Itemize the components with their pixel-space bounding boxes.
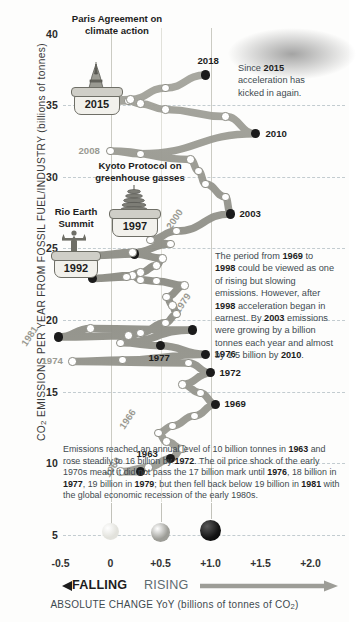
note-period-l7: were growing by a billion xyxy=(215,325,316,335)
note-period-l2b: could be viewed as one xyxy=(235,263,334,273)
paris-milestone-year: 2015 xyxy=(85,98,109,110)
data-point-1979[interactable] xyxy=(188,325,197,334)
data-point-1987[interactable] xyxy=(162,293,170,301)
data-point-1989[interactable] xyxy=(152,277,160,285)
para-year-1963: 1963 xyxy=(288,444,308,454)
note-period-l5b: acceleration began in xyxy=(235,301,325,311)
data-point-1975[interactable] xyxy=(118,356,126,364)
para-p1: Emissions reached an annual level of 10 … xyxy=(63,444,288,454)
para-p4: , 18 billion in xyxy=(287,467,336,477)
data-point-2011[interactable] xyxy=(221,112,229,120)
data-point-1966[interactable] xyxy=(154,429,162,437)
legend-stem-2 xyxy=(211,503,212,519)
paris-milestone-heading: Paris Agreement on climate action xyxy=(42,13,192,37)
data-point-1994[interactable] xyxy=(136,268,144,276)
data-point-1996[interactable] xyxy=(158,254,166,262)
data-point-1995[interactable] xyxy=(152,261,160,269)
x-tick-+0.5: +0.5 xyxy=(138,557,184,569)
summary-paragraph: Emissions reached an annual level of 10 … xyxy=(63,444,343,502)
data-point-1984[interactable] xyxy=(161,319,169,327)
data-point-2018[interactable] xyxy=(201,70,210,79)
note-period-year-1998a: 1998 xyxy=(215,263,235,273)
note-since-2015-l3: kicked in again. xyxy=(238,88,301,98)
para-year-1977: 1977 xyxy=(63,479,83,489)
point-label-1977: 1977 xyxy=(149,352,170,363)
note-period-l8: tonnes each year and almost xyxy=(215,338,333,348)
note-since-2015-year: 2015 xyxy=(264,63,284,73)
rio-milestone-year-plinth: 1992 xyxy=(54,257,98,278)
note-period-l1c: to xyxy=(303,251,313,261)
data-point-1983[interactable] xyxy=(136,329,144,337)
rio-heading-line1: Rio Earth xyxy=(55,206,98,217)
note-since-2015-l2: acceleration has xyxy=(238,75,305,85)
paris-milestone-year-plinth: 2015 xyxy=(74,93,120,115)
data-point-2003[interactable] xyxy=(226,209,235,218)
data-point-1976[interactable] xyxy=(201,350,210,359)
point-label-2008: 2008 xyxy=(79,145,100,156)
data-point-1981[interactable] xyxy=(54,332,63,341)
note-since-2015: Since 2015 acceleration has kicked in ag… xyxy=(238,62,343,99)
legend-swatch-+1.0 xyxy=(200,520,221,541)
data-point-2013[interactable] xyxy=(136,99,144,107)
para-year-1981: 1981 xyxy=(301,479,321,489)
note-since-2015-l1a: Since xyxy=(238,63,264,73)
data-point-1980[interactable] xyxy=(86,324,94,332)
para-year-1976: 1976 xyxy=(267,467,287,477)
data-point-1974[interactable] xyxy=(68,357,76,365)
note-period-year-1969: 1969 xyxy=(282,251,302,261)
x-axis-title-tail: ) xyxy=(295,599,299,610)
point-label-2003: 2003 xyxy=(240,208,261,219)
data-point-1982[interactable] xyxy=(124,331,132,339)
kyoto-milestone-heading: Kyoto Protocol on greenhouse gasses xyxy=(75,160,205,184)
plinth-cap xyxy=(71,87,123,97)
x-tick-0: 0 xyxy=(88,557,134,569)
point-label-1969: 1969 xyxy=(225,398,246,409)
point-label-2010: 2010 xyxy=(266,128,287,139)
data-point-2016[interactable] xyxy=(126,95,134,103)
kyoto-milestone-year: 1997 xyxy=(123,220,147,232)
para-year-1979: 1979 xyxy=(135,479,155,489)
data-point-1999[interactable] xyxy=(128,248,136,256)
note-period-l1a: The period from xyxy=(215,251,282,261)
note-period-l6a: earnest. By xyxy=(215,313,264,323)
note-period-l6c: emissions xyxy=(284,313,327,323)
legend-stem-1 xyxy=(161,503,162,522)
note-period-l9a: by 1.5 billion by xyxy=(215,350,281,360)
note-period-year-2003: 2003 xyxy=(264,313,284,323)
data-point-1993[interactable] xyxy=(122,273,130,281)
plinth-cap xyxy=(51,251,101,261)
note-period-1969-2010: The period from 1969 to 1998 could be vi… xyxy=(215,250,343,362)
rio-milestone-year: 1992 xyxy=(64,262,88,274)
falling-label: FALLING xyxy=(72,578,127,592)
kyoto-milestone-year-plinth: 1997 xyxy=(112,215,158,237)
data-point-1978[interactable] xyxy=(116,339,124,347)
falling-rising-legend: FALLING RISING xyxy=(50,577,340,595)
note-period-l4: emissions. However, after xyxy=(215,288,320,298)
paris-heading-line1: Paris Agreement on xyxy=(72,13,162,24)
data-point-2009[interactable] xyxy=(136,150,144,158)
data-point-2008[interactable] xyxy=(106,147,114,155)
data-point-1990[interactable] xyxy=(136,276,144,284)
data-point-2000[interactable] xyxy=(166,240,174,248)
legend-swatch-0 xyxy=(102,523,119,540)
para-year-1972: 1972 xyxy=(175,456,195,466)
data-point-2004[interactable] xyxy=(221,193,229,201)
x-tick-+1.5: +1.5 xyxy=(238,557,284,569)
data-point-1967[interactable] xyxy=(168,422,176,430)
data-point-1971[interactable] xyxy=(178,380,186,388)
legend-swatch-+0.5 xyxy=(151,523,170,542)
point-label-2018: 2018 xyxy=(198,55,219,66)
point-label-1974: 1974 xyxy=(42,355,63,366)
data-point-2017[interactable] xyxy=(161,84,169,92)
data-point-2012[interactable] xyxy=(161,105,169,113)
data-point-1969[interactable] xyxy=(211,400,220,409)
data-point-1970[interactable] xyxy=(196,389,204,397)
data-point-1973[interactable] xyxy=(184,359,192,367)
para-p5: , 19 billion in xyxy=(83,479,135,489)
point-label-1972: 1972 xyxy=(220,367,241,378)
x-tick--0.5: -0.5 xyxy=(38,557,84,569)
data-point-1968[interactable] xyxy=(190,412,198,420)
data-point-1988[interactable] xyxy=(180,281,188,289)
paris-heading-line2: climate action xyxy=(85,25,149,36)
